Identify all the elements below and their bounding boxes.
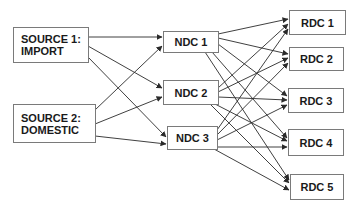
ndc-2-label: NDC 2: [174, 87, 207, 99]
source-2-box: SOURCE 2: DOMESTIC: [13, 104, 96, 143]
rdc-2-label: RDC 2: [300, 53, 333, 65]
rdc-4-box: RDC 4: [288, 129, 344, 156]
source-1-line2: IMPORT: [21, 45, 64, 57]
ndc-2-box: NDC 2: [163, 80, 219, 105]
source-1-line1: SOURCE 1:: [21, 33, 81, 45]
rdc-3-box: RDC 3: [288, 88, 344, 113]
rdc-3-label: RDC 3: [299, 95, 332, 107]
edge-n1-r4: [212, 52, 287, 138]
edge-n2-r5: [210, 104, 289, 183]
source-2-line2: DOMESTIC: [21, 124, 79, 136]
rdc-5-box: RDC 5: [290, 174, 344, 200]
rdc-1-label: RDC 1: [301, 17, 334, 29]
edge-n1-r5: [205, 52, 289, 180]
ndc-1-box: NDC 1: [163, 31, 219, 53]
rdc-2-box: RDC 2: [289, 47, 344, 71]
rdc-4-label: RDC 4: [299, 137, 332, 149]
edge-n1-r1: [218, 19, 288, 34]
source-2-line1: SOURCE 2:: [21, 112, 81, 124]
ndc-3-box: NDC 3: [167, 126, 218, 150]
edge-s2-n2: [95, 97, 162, 124]
edge-s2-n3: [95, 136, 166, 144]
ndc-3-label: NDC 3: [176, 132, 209, 144]
edge-s1-n3: [88, 57, 166, 137]
edge-n3-r5: [214, 149, 289, 190]
source-1-box: SOURCE 1: IMPORT: [13, 27, 89, 63]
edge-n2-r2: [218, 58, 288, 92]
ndc-1-label: NDC 1: [174, 36, 207, 48]
rdc-5-label: RDC 5: [300, 181, 333, 193]
rdc-1-box: RDC 1: [289, 10, 346, 35]
